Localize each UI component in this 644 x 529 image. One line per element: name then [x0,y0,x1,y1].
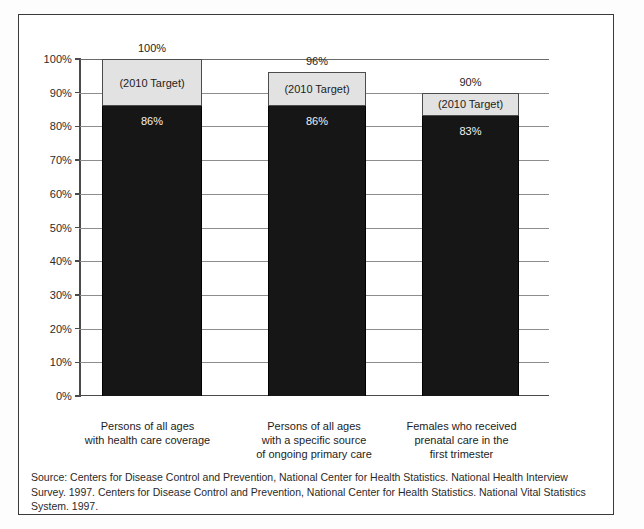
y-axis-tick-mark [75,328,80,330]
y-axis-tick-label: 40% [50,255,72,267]
y-axis-tick-label: 10% [50,356,72,368]
y-axis-tick-label: 30% [50,289,72,301]
y-axis-tick-mark [75,362,80,364]
y-axis-tick-label: 90% [50,87,72,99]
figure-frame: 100%90%80%70%60%50%40%30%20%10%0% 100%(2… [18,14,614,515]
y-axis-tick-mark [75,92,80,94]
bar-target-segment-label: (2010 Target) [119,77,184,89]
bar-target-segment-label: (2010 Target) [438,98,503,110]
y-axis-tick-mark [75,260,80,262]
category-label-line: first trimester [379,447,544,461]
y-axis-tick-label: 80% [50,120,72,132]
category-label: Persons of all ageswith health care cove… [60,419,235,447]
bar-target-value-label: 96% [268,55,366,67]
category-label-line: Persons of all ages [60,419,235,433]
category-label: Persons of all ageswith a specific sourc… [224,419,404,461]
y-axis-tick-label: 20% [50,323,72,335]
category-label-line: Females who received [379,419,544,433]
bar-segment-target[interactable]: (2010 Target) [102,59,202,106]
y-axis-tick-mark [75,126,80,128]
y-axis-tick-mark [75,395,80,397]
category-label: Females who receivedprenatal care in the… [379,419,544,461]
category-label-line: with health care coverage [60,433,235,447]
y-axis-tick-mark [75,294,80,296]
category-label-line: Persons of all ages [224,419,404,433]
y-axis-tick-label: 70% [50,154,72,166]
bar-actual-value-label: 86% [269,115,365,127]
y-axis-tick-label: 0% [56,390,72,402]
bar-group: 100%(2010 Target)86% [102,59,202,396]
y-axis-tick-mark [75,159,80,161]
y-axis-tick-label: 50% [50,222,72,234]
bar-target-value-label: 100% [102,42,202,54]
bar-target-value-label: 90% [422,76,519,88]
category-label-line: with a specific source [224,433,404,447]
y-axis-tick-label: 100% [43,53,72,65]
y-axis-tick-label: 60% [50,188,72,200]
category-label-line: of ongoing primary care [224,447,404,461]
source-note: Source: Centers for Disease Control and … [31,470,603,514]
y-axis-tick-mark [75,193,80,195]
bar-segment-target[interactable]: (2010 Target) [422,93,519,117]
bar-segment-actual[interactable]: 83% [422,116,519,396]
category-label-line: prenatal care in the [379,433,544,447]
bar-target-segment-label: (2010 Target) [284,83,349,95]
page-background: 100%90%80%70%60%50%40%30%20%10%0% 100%(2… [0,0,644,529]
bar-segment-actual[interactable]: 86% [268,106,366,396]
y-axis-tick-mark [75,227,80,229]
bar-segment-target[interactable]: (2010 Target) [268,72,366,106]
bar-group: 90%(2010 Target)83% [422,59,519,396]
bar-actual-value-label: 83% [423,125,518,137]
y-axis-tick-mark [75,58,80,60]
bar-group: 96%(2010 Target)86% [268,59,366,396]
bar-segment-actual[interactable]: 86% [102,106,202,396]
bar-actual-value-label: 86% [103,115,201,127]
plot-area: 100%90%80%70%60%50%40%30%20%10%0% 100%(2… [79,59,549,396]
